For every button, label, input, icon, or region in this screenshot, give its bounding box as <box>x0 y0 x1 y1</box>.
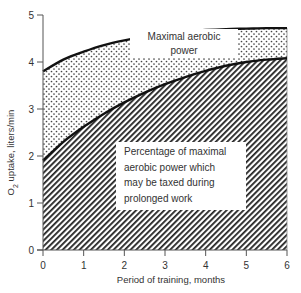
y-axis-label: O2 uptake, liters/min <box>5 110 19 196</box>
x-tick-label: 5 <box>244 260 250 271</box>
annotation-maximal-aerobic-power: Maximal aerobic power <box>130 29 238 58</box>
annotation-line: prolonged work <box>124 191 244 207</box>
x-tick-label: 3 <box>162 260 168 271</box>
y-tick-label: 2 <box>28 151 34 162</box>
x-axis-label: Period of training, months <box>117 274 226 285</box>
x-tick-label: 1 <box>81 260 87 271</box>
x-tick-label: 4 <box>203 260 209 271</box>
annotation-line: Percentage of maximal <box>124 144 244 160</box>
y-tick-label: 5 <box>28 10 34 21</box>
annotation-line: Maximal aerobic <box>130 30 238 44</box>
annotation-line: power <box>130 44 238 58</box>
x-tick-label: 0 <box>40 260 46 271</box>
annotation-line: may be taxed during <box>124 175 244 191</box>
y-tick-label: 3 <box>28 104 34 115</box>
x-tick-label: 2 <box>122 260 128 271</box>
plot-areas <box>43 28 287 250</box>
annotation-line: aerobic power which <box>124 160 244 176</box>
y-tick-label: 4 <box>28 57 34 68</box>
x-tick-label: 6 <box>284 260 290 271</box>
y-tick-label: 0 <box>28 245 34 256</box>
y-tick-label: 1 <box>28 198 34 209</box>
annotation-percentage-taxed: Percentage of maximal aerobic power whic… <box>116 142 246 210</box>
